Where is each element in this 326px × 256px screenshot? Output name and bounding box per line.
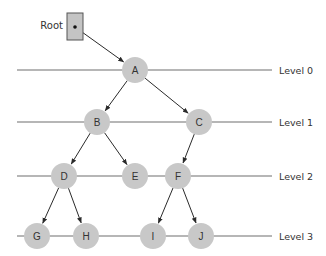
node-label: D [60,171,67,182]
root-label: Root [40,20,63,31]
tree-diagram: Level 0Level 1Level 2Level 3 Root ABCDEF… [0,0,326,256]
node-J: J [188,223,214,249]
node-H: H [73,223,99,249]
node-E: E [122,163,148,189]
level-label-3: Level 3 [279,231,313,242]
node-label: G [33,231,41,242]
edge-F-J [183,188,196,223]
level-label-0: Level 0 [279,65,313,76]
edge-B-D [71,133,90,164]
node-D: D [51,163,77,189]
root-pointer: Root [40,13,83,40]
node-label: I [152,231,155,242]
level-label-1: Level 1 [279,117,313,128]
edge-D-H [68,188,81,223]
node-F: F [165,163,191,189]
node-B: B [84,109,110,135]
node-label: C [195,117,202,128]
edge-B-E [104,133,126,165]
node-label: A [132,65,139,76]
node-label: J [199,231,204,242]
node-I: I [140,223,166,249]
node-label: B [94,117,101,128]
node-label: H [82,231,89,242]
edge-F-I [158,188,173,223]
node-label: F [175,171,181,182]
edge-C-F [183,134,194,163]
node-G: G [24,223,50,249]
node-A: A [122,57,148,83]
level-label-2: Level 2 [279,171,313,182]
root-pointer-dot [73,25,77,29]
edge-D-G [43,188,59,223]
edge-A-C [145,78,188,113]
edge-A-B [105,80,127,110]
node-label: E [132,171,139,182]
node-C: C [186,109,212,135]
